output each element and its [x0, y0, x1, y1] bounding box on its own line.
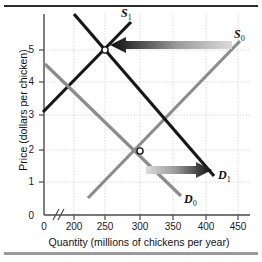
x-tick-marks — [74, 215, 238, 220]
curve-label-s1: S1 — [121, 6, 132, 22]
curve-label-d1-base: D — [218, 168, 227, 182]
curve-label-s0: S0 — [234, 27, 245, 43]
supply-demand-figure: 5 4 3 2 1 0 0 200 250 300 350 400 450 Pr… — [0, 0, 262, 262]
y-tick-label-0: 0 — [18, 210, 34, 221]
x-tick-label-350: 350 — [159, 221, 187, 232]
curve-label-d1-sub: 1 — [227, 175, 231, 184]
x-tick-label-200: 200 — [60, 221, 88, 232]
curve-label-d1: D1 — [218, 168, 231, 184]
y-axis-title: Price (dollars per chicken) — [17, 35, 29, 185]
equilibrium-point-new — [102, 47, 108, 53]
x-tick-label-450: 450 — [224, 221, 252, 232]
curve-label-s0-base: S — [234, 27, 241, 41]
curve-label-s1-base: S — [121, 6, 128, 20]
curve-label-d0-base: D — [184, 192, 193, 206]
supply-shift-arrow — [110, 37, 232, 53]
y-tick-marks — [39, 50, 44, 182]
curve-label-s1-sub: 1 — [128, 13, 132, 22]
x-tick-label-250: 250 — [91, 221, 119, 232]
curve-label-d0: D0 — [184, 192, 197, 208]
equilibrium-point-original — [137, 148, 143, 154]
curve-label-d0-sub: 0 — [193, 199, 197, 208]
demand-curve-d1 — [74, 14, 214, 176]
x-tick-label-400: 400 — [192, 221, 220, 232]
x-tick-label-0: 0 — [30, 221, 58, 232]
x-tick-label-300: 300 — [126, 221, 154, 232]
curve-label-s0-sub: 0 — [241, 34, 245, 43]
demand-curve-d0 — [45, 64, 181, 196]
x-axis-title: Quantity (millions of chickens per year) — [20, 236, 258, 248]
